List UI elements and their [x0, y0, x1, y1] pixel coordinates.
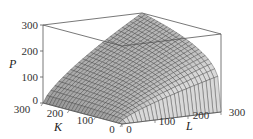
l-tick-0: 0 — [126, 123, 132, 135]
k-tick-100: 100 — [77, 114, 94, 126]
production-surface — [43, 13, 221, 124]
k-tick-200: 200 — [47, 107, 64, 119]
l-tick-100: 100 — [159, 115, 176, 127]
p-tick-0: 0 — [33, 94, 39, 106]
l-axis-label: L — [185, 119, 193, 133]
p-axis: 300 200 100 0 P — [8, 19, 39, 106]
p-axis-label: P — [8, 57, 17, 71]
p-tick-200: 200 — [22, 45, 39, 57]
p-tick-300: 300 — [22, 19, 39, 31]
l-tick-300: 300 — [229, 106, 246, 118]
k-tick-300: 300 — [14, 103, 31, 115]
k-axis-label: K — [53, 120, 63, 134]
k-tick-0: 0 — [109, 123, 115, 135]
l-tick-200: 200 — [193, 109, 210, 121]
p-tick-100: 100 — [22, 71, 39, 83]
surface-plot: 300 200 100 0 P 300 200 100 0 K 0 100 20… — [0, 0, 253, 139]
